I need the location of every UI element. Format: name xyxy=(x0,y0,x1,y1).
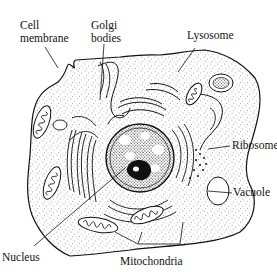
label-golgi-line1: Golgi xyxy=(91,19,117,31)
lysosome xyxy=(209,74,233,92)
leader-cell-membrane xyxy=(45,47,58,68)
label-ribosome: Ribosome xyxy=(232,139,277,151)
label-cell-membrane-line2: membrane xyxy=(20,32,69,44)
nucleus xyxy=(106,124,174,192)
label-golgi-line2: bodies xyxy=(91,32,121,44)
label-nucleus: Nucleus xyxy=(2,251,40,263)
label-cell-membrane-line1: Cell xyxy=(20,19,39,31)
label-mitochondria: Mitochondria xyxy=(120,255,183,267)
cell-diagram: Cell membrane Golgi bodies Lysosome Ribo… xyxy=(0,0,277,272)
label-lysosome: Lysosome xyxy=(187,29,234,41)
label-vacuole: Vacuole xyxy=(233,186,270,198)
